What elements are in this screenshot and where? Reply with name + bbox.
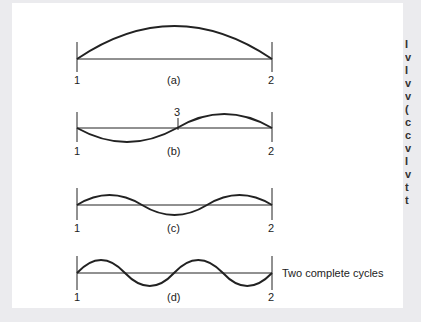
node-label-2-d: 2	[268, 291, 274, 303]
wave-panel-a	[77, 26, 272, 72]
caption-b: (b)	[167, 145, 180, 157]
node-label-3-b: 3	[174, 106, 180, 118]
node-label-1-c: 1	[74, 222, 80, 234]
wave-panel-c	[77, 188, 272, 220]
node-label-2-c: 2	[268, 222, 274, 234]
node-label-1-b: 1	[74, 145, 80, 157]
caption-c: (c)	[167, 222, 180, 234]
node-label-1-d: 1	[74, 291, 80, 303]
node-label-2-b: 2	[268, 145, 274, 157]
caption-a: (a)	[167, 74, 180, 86]
annotation-two-cycles: Two complete cycles	[282, 267, 383, 279]
node-label-1-a: 1	[74, 74, 80, 86]
clipped-side-text: I v I v v ( c c v I v t t	[405, 38, 421, 207]
node-label-2-a: 2	[268, 74, 274, 86]
wave-panel-d	[77, 256, 272, 290]
caption-d: (d)	[167, 291, 180, 303]
